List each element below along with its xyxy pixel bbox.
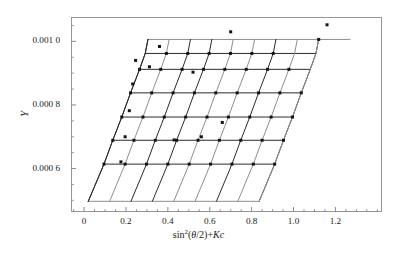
data-marker: [154, 139, 157, 142]
angle-line: [152, 39, 211, 201]
data-marker: [159, 68, 162, 71]
data-marker: [278, 91, 281, 94]
lattice-lines: [88, 39, 350, 201]
data-marker: [209, 163, 212, 166]
data-marker: [134, 59, 137, 62]
angle-line: [238, 39, 297, 201]
data-marker: [141, 116, 144, 119]
angle-line: [174, 39, 233, 201]
data-marker: [221, 121, 224, 124]
data-marker: [129, 91, 132, 94]
data-marker: [218, 139, 221, 142]
data-marker: [128, 109, 131, 112]
x-tick-label: 1.2: [320, 216, 350, 226]
data-marker: [111, 139, 114, 142]
data-marker: [145, 163, 148, 166]
data-marker: [248, 116, 251, 119]
data-marker: [317, 38, 320, 41]
data-marker: [131, 82, 134, 85]
data-marker: [181, 68, 184, 71]
y-tick-label: 0.000 6: [14, 163, 60, 173]
x-tick-label: 0.6: [195, 216, 225, 226]
data-marker: [124, 135, 127, 138]
data-marker: [239, 139, 242, 142]
data-marker: [257, 91, 260, 94]
data-marker: [266, 68, 269, 71]
y-tick-label: 0.001 0: [14, 35, 60, 45]
angle-line: [88, 39, 148, 201]
data-marker: [148, 65, 151, 68]
data-marker: [132, 139, 135, 142]
x-tick-label: 0: [69, 216, 99, 226]
data-marker: [282, 139, 285, 142]
right-envelope-line: [259, 39, 350, 201]
x-label-c: c: [220, 229, 224, 240]
data-marker: [193, 91, 196, 94]
data-marker: [206, 116, 209, 119]
x-axis-label: sin2(θ/2)+Kc: [0, 228, 397, 240]
data-marker: [138, 68, 141, 71]
data-marker: [245, 68, 248, 71]
x-tick-label: 0.2: [111, 216, 141, 226]
zimm-plot-figure: Y 0.001 00.000 80.000 6 00.20.40.60.81.0…: [0, 0, 397, 256]
data-marker: [250, 52, 253, 55]
data-marker: [229, 30, 232, 33]
x-label-sin: sin: [173, 229, 185, 240]
data-marker: [270, 116, 273, 119]
data-marker: [119, 160, 122, 163]
x-label-K: K: [213, 229, 220, 240]
data-marker: [188, 163, 191, 166]
data-marker: [158, 45, 161, 48]
angle-line: [110, 39, 169, 201]
data-marker: [166, 163, 169, 166]
data-marker: [300, 91, 303, 94]
data-marker: [120, 116, 123, 119]
data-marker: [252, 163, 255, 166]
data-marker: [208, 52, 211, 55]
data-marker: [273, 163, 276, 166]
data-marker: [227, 116, 230, 119]
data-marker: [236, 91, 239, 94]
data-marker: [191, 71, 194, 74]
data-marker: [261, 139, 264, 142]
x-tick-label: 0.8: [237, 216, 267, 226]
data-marker: [173, 138, 176, 141]
data-marker: [184, 116, 187, 119]
y-tick-label: 0.000 8: [14, 99, 60, 109]
left-envelope-line: [88, 39, 148, 201]
data-marker: [172, 91, 175, 94]
data-marker: [326, 23, 329, 26]
angle-line: [216, 39, 275, 201]
angle-line: [131, 39, 190, 201]
data-marker: [200, 135, 203, 138]
data-marker: [214, 91, 217, 94]
data-marker: [229, 52, 232, 55]
data-marker: [291, 116, 294, 119]
x-tick-label: 0.4: [153, 216, 183, 226]
data-marker: [165, 52, 168, 55]
data-marker: [230, 163, 233, 166]
data-marker: [287, 68, 290, 71]
data-marker: [163, 116, 166, 119]
data-marker: [102, 163, 105, 166]
data-marker: [186, 52, 189, 55]
x-tick-label: 1.0: [279, 216, 309, 226]
data-marker: [272, 52, 275, 55]
data-marker: [124, 163, 127, 166]
data-marker: [223, 68, 226, 71]
data-marker: [150, 91, 153, 94]
data-marker: [197, 139, 200, 142]
x-label-half: /2: [196, 229, 204, 240]
angle-line: [259, 39, 318, 201]
angle-line: [195, 39, 254, 201]
data-marker: [202, 68, 205, 71]
